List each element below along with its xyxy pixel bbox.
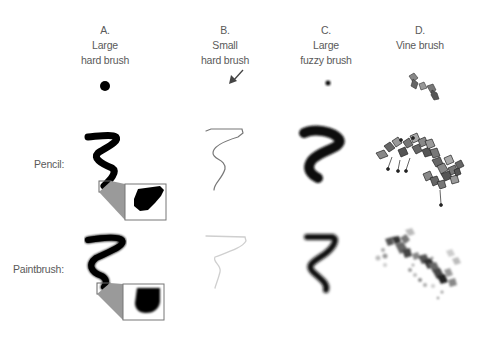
paintbrush-vine-stroke [376,228,462,299]
paintbrush-small-hard-stroke [206,236,246,288]
arrow-icon [229,70,243,84]
paintbrush-large-fuzzy-stroke [307,237,335,290]
pencil-large-fuzzy-stroke [304,131,340,178]
brush-tip-large-hard [100,81,110,91]
brush-tip-vine [409,73,439,100]
paintbrush-large-hard-stroke [88,238,164,320]
pencil-large-hard-stroke [88,135,166,220]
pencil-vine-stroke [376,133,464,207]
brush-tip-large-fuzzy [326,81,331,86]
brush-comparison-figure [0,0,480,340]
pencil-small-hard-stroke [206,129,243,190]
